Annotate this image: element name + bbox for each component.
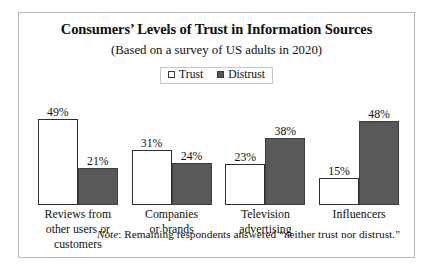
category-line: Television (220, 207, 310, 222)
bar-distrust-television[interactable]: 38% (265, 138, 305, 205)
bar-value-trust-reviews: 49% (47, 106, 69, 119)
plot-area: 49% 21% 31% 24% 23% 38% (19, 95, 414, 205)
category-line: Reviews from (33, 207, 123, 222)
bar-group-influencers: 15% 48% (319, 121, 399, 205)
bar-distrust-reviews[interactable]: 21% (78, 168, 118, 205)
bar-trust-television[interactable]: 23% (225, 164, 265, 205)
category-line: Companies (127, 207, 217, 222)
bar-value-trust-influencers: 15% (328, 165, 350, 178)
open-square-swatch-icon (168, 71, 175, 78)
chart-legend: Trust Distrust (19, 67, 414, 84)
bar-value-distrust-television: 38% (275, 125, 297, 138)
chart-figure-frame: Consumers’ Levels of Trust in Informatio… (18, 12, 415, 258)
note-text: Remaining respondents answered “neither … (124, 228, 400, 240)
chart-title: Consumers’ Levels of Trust in Informatio… (19, 21, 414, 38)
legend-label-distrust: Distrust (228, 69, 265, 81)
legend-box: Trust Distrust (160, 67, 273, 84)
bar-trust-companies[interactable]: 31% (132, 150, 172, 205)
bar-value-distrust-influencers: 48% (368, 108, 390, 121)
bar-trust-influencers[interactable]: 15% (319, 178, 359, 205)
chart-subtitle: (Based on a survey of US adults in 2020) (19, 43, 414, 58)
category-line: Influencers (314, 207, 404, 222)
bar-value-distrust-reviews: 21% (87, 155, 109, 168)
legend-item-distrust[interactable]: Distrust (217, 69, 265, 81)
bar-distrust-influencers[interactable]: 48% (359, 121, 399, 205)
bar-group-companies: 31% 24% (132, 150, 212, 205)
legend-label-trust: Trust (179, 69, 203, 81)
bar-value-trust-television: 23% (235, 151, 257, 164)
bar-groups: 49% 21% 31% 24% 23% 38% (31, 95, 406, 205)
bar-value-distrust-companies: 24% (181, 150, 203, 163)
bar-value-trust-companies: 31% (141, 137, 163, 150)
bar-trust-reviews[interactable]: 49% (38, 119, 78, 205)
filled-square-swatch-icon (217, 71, 224, 78)
note-prefix: Note (97, 228, 118, 240)
bar-distrust-companies[interactable]: 24% (172, 163, 212, 205)
legend-item-trust[interactable]: Trust (168, 69, 203, 81)
bar-group-television: 23% 38% (225, 138, 305, 205)
chart-note: Note: Remaining respondents answered “ne… (19, 228, 400, 240)
bar-group-reviews: 49% 21% (38, 119, 118, 205)
category-label-influencers: Influencers (314, 207, 404, 222)
